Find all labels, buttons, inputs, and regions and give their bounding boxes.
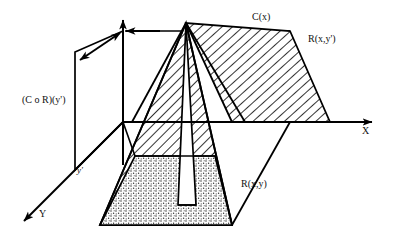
label-r-x-yprime: R(x,y') [308, 34, 336, 44]
region-base-trapezoid [100, 156, 232, 225]
figure-canvas: (C o R)(y') C(x) R(x,y') R(x,y) X Y y' [0, 0, 397, 246]
label-axis-x: X [362, 126, 369, 136]
label-c-of-x: C(x) [252, 12, 270, 22]
label-tick-yprime: y' [77, 166, 83, 175]
label-axis-y: Y [39, 209, 46, 219]
label-r-x-y: R(x,y) [241, 179, 267, 189]
geometric-diagram [0, 0, 397, 246]
label-composition: (C o R)(y') [22, 95, 65, 105]
composition-arrow [80, 31, 160, 60]
